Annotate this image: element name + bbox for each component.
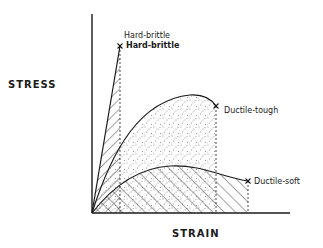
hard-brittle-label: Hard-brittle	[126, 41, 180, 50]
x-axis-label: STRAIN	[172, 228, 220, 239]
ductile-tough-label: Ductile-tough	[224, 106, 278, 115]
ductile-soft-label: Ductile-soft	[254, 177, 300, 186]
hard-brittle-region	[92, 46, 120, 213]
stress-strain-diagram: STRESS STRAIN Hard-brittle Hard-brittle …	[0, 0, 323, 248]
y-axis-label: STRESS	[8, 79, 57, 90]
hard-brittle-label-top: Hard-brittle	[124, 31, 170, 40]
